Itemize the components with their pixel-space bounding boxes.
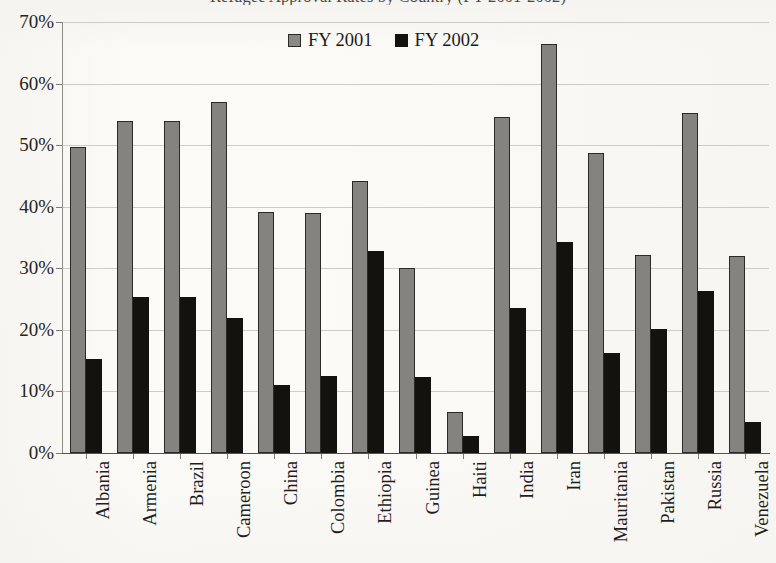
x-axis-tick-mark	[180, 454, 181, 459]
x-axis-tick-mark	[510, 454, 511, 459]
bar-pakistan-fy-2001	[635, 255, 651, 453]
x-axis-label-venezuela: Venezuela	[752, 461, 773, 537]
bar-armenia-fy-2002	[133, 297, 149, 453]
bar-ethiopia-fy-2001	[352, 181, 368, 453]
bar-group	[251, 22, 298, 453]
y-axis-tick-label: 30%	[0, 257, 54, 279]
x-axis-tick-mark	[133, 454, 134, 459]
legend-swatch-icon	[288, 34, 301, 47]
bar-group	[533, 22, 580, 453]
bar-mauritania-fy-2002	[604, 353, 620, 453]
bar-ethiopia-fy-2002	[368, 251, 384, 453]
chart-title: Refugee Approval Rates by Country (FY 20…	[0, 0, 776, 5]
bar-pakistan-fy-2002	[651, 329, 667, 453]
bar-china-fy-2002	[274, 385, 290, 453]
chart-legend: FY 2001FY 2002	[288, 30, 479, 51]
legend-swatch-icon	[395, 34, 408, 47]
x-axis-label-pakistan: Pakistan	[658, 461, 679, 524]
x-axis-label-albania: Albania	[93, 461, 114, 520]
legend-label: FY 2002	[415, 30, 480, 51]
x-axis-tick-mark	[745, 454, 746, 459]
bar-russia-fy-2001	[682, 113, 698, 453]
bar-iran-fy-2002	[557, 242, 573, 453]
bar-haiti-fy-2001	[447, 412, 463, 453]
x-axis-tick-mark	[416, 454, 417, 459]
bar-india-fy-2002	[510, 308, 526, 453]
bar-china-fy-2001	[258, 212, 274, 453]
bar-group	[62, 22, 109, 453]
y-axis-tick-label: 0%	[0, 442, 54, 464]
y-axis-tick-label: 10%	[0, 380, 54, 402]
y-axis-tick-mark	[56, 453, 62, 454]
bar-haiti-fy-2002	[463, 436, 479, 453]
x-axis-tick-mark	[368, 454, 369, 459]
legend-item-fy-2002: FY 2002	[395, 30, 480, 51]
bar-group	[392, 22, 439, 453]
bar-armenia-fy-2001	[117, 121, 133, 453]
x-axis-label-armenia: Armenia	[140, 461, 161, 526]
bar-venezuela-fy-2001	[729, 256, 745, 453]
x-axis-label-iran: Iran	[564, 461, 585, 491]
bar-group	[439, 22, 486, 453]
x-axis-label-india: India	[517, 461, 538, 499]
y-axis-tick-label: 60%	[0, 73, 54, 95]
bar-group	[345, 22, 392, 453]
bar-cameroon-fy-2002	[227, 318, 243, 453]
x-axis-label-cameroon: Cameroon	[234, 461, 255, 538]
y-axis-tick-label: 40%	[0, 196, 54, 218]
x-axis-label-mauritania: Mauritania	[611, 461, 632, 542]
bar-venezuela-fy-2002	[745, 422, 761, 453]
x-axis-tick-mark	[698, 454, 699, 459]
legend-label: FY 2001	[308, 30, 373, 51]
bar-iran-fy-2001	[541, 44, 557, 453]
bar-group	[486, 22, 533, 453]
bar-group	[722, 22, 769, 453]
bar-brazil-fy-2001	[164, 121, 180, 453]
bar-india-fy-2001	[494, 117, 510, 453]
bar-group	[298, 22, 345, 453]
legend-item-fy-2001: FY 2001	[288, 30, 373, 51]
y-axis-tick-label: 70%	[0, 11, 54, 33]
x-axis-label-russia: Russia	[705, 461, 726, 510]
bar-group	[156, 22, 203, 453]
bar-brazil-fy-2002	[180, 297, 196, 453]
bar-albania-fy-2001	[70, 147, 86, 453]
bar-group	[109, 22, 156, 453]
x-axis-tick-mark	[86, 454, 87, 459]
x-axis-label-guinea: Guinea	[423, 461, 444, 514]
bar-group	[675, 22, 722, 453]
bar-group	[203, 22, 250, 453]
x-axis-label-brazil: Brazil	[187, 461, 208, 506]
bar-mauritania-fy-2001	[588, 153, 604, 453]
bar-group	[628, 22, 675, 453]
x-axis-label-china: China	[281, 461, 302, 505]
x-axis-label-ethiopia: Ethiopia	[375, 461, 396, 524]
x-axis-tick-mark	[557, 454, 558, 459]
bar-russia-fy-2002	[698, 291, 714, 453]
y-axis-tick-label: 20%	[0, 319, 54, 341]
plot-area	[62, 22, 769, 453]
bar-guinea-fy-2001	[399, 268, 415, 453]
y-axis-tick-label: 50%	[0, 134, 54, 156]
x-axis-tick-mark	[227, 454, 228, 459]
x-axis-tick-mark	[274, 454, 275, 459]
bar-albania-fy-2002	[86, 359, 102, 453]
bar-cameroon-fy-2001	[211, 102, 227, 453]
bar-colombia-fy-2001	[305, 213, 321, 453]
x-axis-label-haiti: Haiti	[470, 461, 491, 498]
bar-group	[580, 22, 627, 453]
x-axis-label-colombia: Colombia	[328, 461, 349, 534]
x-axis-tick-mark	[651, 454, 652, 459]
x-axis-tick-mark	[463, 454, 464, 459]
bar-guinea-fy-2002	[415, 377, 431, 453]
x-axis-tick-mark	[321, 454, 322, 459]
x-axis-tick-mark	[604, 454, 605, 459]
bar-chart: Refugee Approval Rates by Country (FY 20…	[0, 0, 776, 563]
bar-colombia-fy-2002	[321, 376, 337, 453]
